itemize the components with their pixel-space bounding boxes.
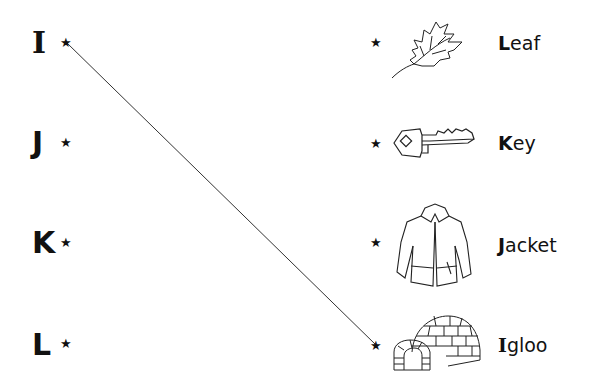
word-igloo: Igloo xyxy=(498,336,547,355)
word-jacket: Jacket xyxy=(498,236,557,255)
jacket-icon xyxy=(395,202,475,290)
key-icon xyxy=(390,125,480,161)
letter-l: L xyxy=(32,330,51,360)
word-leaf-rest: eaf xyxy=(510,32,540,54)
word-key-first: K xyxy=(498,132,513,154)
star-left-l[interactable]: ★ xyxy=(60,337,72,350)
letter-k: K xyxy=(32,228,55,258)
star-right-igloo[interactable]: ★ xyxy=(370,339,382,352)
word-leaf-first: L xyxy=(498,32,510,54)
star-left-i[interactable]: ★ xyxy=(60,36,72,49)
word-key: Key xyxy=(498,134,536,153)
word-key-rest: ey xyxy=(513,132,536,154)
star-right-key[interactable]: ★ xyxy=(370,137,382,150)
star-left-j[interactable]: ★ xyxy=(60,136,72,149)
letter-j: J xyxy=(32,128,43,158)
igloo-icon xyxy=(390,312,485,374)
word-leaf: Leaf xyxy=(498,34,540,53)
star-left-k[interactable]: ★ xyxy=(60,236,72,249)
word-jacket-rest: acket xyxy=(505,234,557,256)
star-right-leaf[interactable]: ★ xyxy=(370,36,382,49)
word-igloo-first: I xyxy=(498,334,507,356)
star-right-jacket[interactable]: ★ xyxy=(370,236,382,249)
leaf-icon xyxy=(390,20,480,82)
word-igloo-rest: gloo xyxy=(507,334,548,356)
letter-i: I xyxy=(32,28,46,58)
